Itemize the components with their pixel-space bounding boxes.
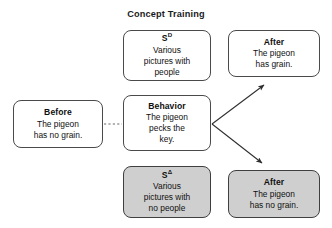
node-s-delta-superscript: Δ	[168, 168, 172, 175]
node-sd-superscript: D	[168, 31, 173, 38]
node-behavior: Behavior The pigeon pecks the key.	[123, 95, 211, 151]
node-before-heading: Before	[44, 107, 72, 118]
connector-behavior-to-after-bottom	[212, 124, 262, 163]
node-after-top-body: The pigeon has grain.	[253, 48, 295, 70]
node-before-body: The pigeon has no grain.	[34, 119, 82, 141]
node-after-bottom-heading: After	[264, 177, 285, 188]
node-sd-heading: SD	[162, 33, 172, 44]
node-after-top-heading: After	[264, 37, 285, 48]
node-s-delta: SΔ Various pictures with no people	[123, 166, 211, 218]
node-before: Before The pigeon has no grain.	[13, 100, 103, 148]
node-s-delta-body: Various pictures with no people	[144, 181, 191, 214]
concept-training-diagram: Concept Training SD Various pictures wit…	[0, 0, 332, 228]
node-s-delta-heading: SΔ	[162, 170, 172, 181]
connector-behavior-to-after-top	[212, 85, 264, 124]
node-after-top: After The pigeon has grain.	[228, 30, 320, 77]
node-behavior-body: The pigeon pecks the key.	[146, 112, 188, 145]
node-after-bottom: After The pigeon has no grain.	[228, 170, 320, 218]
diagram-title: Concept Training	[0, 9, 332, 19]
node-after-bottom-body: The pigeon has no grain.	[250, 189, 298, 211]
node-behavior-heading: Behavior	[148, 101, 186, 112]
node-sd-body: Various pictures with people	[144, 45, 191, 78]
node-sd: SD Various pictures with people	[123, 30, 211, 81]
